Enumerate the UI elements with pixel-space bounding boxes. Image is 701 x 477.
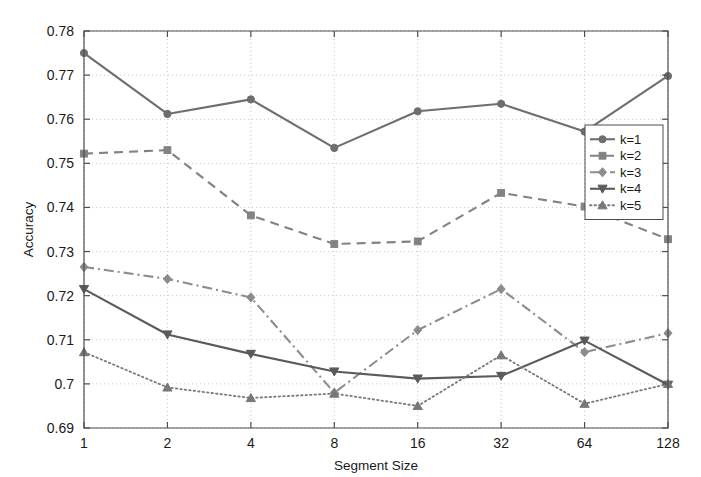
- legend-label: k=5: [620, 198, 641, 213]
- line-chart-canvas: 0.690.70.710.720.730.740.750.760.770.781…: [0, 0, 701, 477]
- data-point-marker: [247, 96, 254, 103]
- x-axis-tick-label: 8: [330, 435, 338, 451]
- data-point-marker: [331, 241, 338, 248]
- legend-label: k=4: [620, 181, 641, 196]
- data-point-marker: [498, 189, 505, 196]
- chart-figure: 0.690.70.710.720.730.740.750.760.770.781…: [0, 0, 701, 477]
- y-axis-tick-label: 0.74: [47, 199, 74, 215]
- chart-legend[interactable]: k=1k=2k=3k=4k=5: [585, 125, 663, 220]
- y-axis-tick-label: 0.76: [47, 111, 74, 127]
- data-point-marker: [164, 110, 171, 117]
- y-axis-tick-label: 0.72: [47, 288, 74, 304]
- x-axis-title: Segment Size: [334, 458, 418, 473]
- legend-marker-square-icon: [599, 152, 606, 159]
- y-axis-tick-label: 0.73: [47, 244, 74, 260]
- x-axis-tick-label: 128: [656, 435, 680, 451]
- legend-label: k=1: [620, 132, 641, 147]
- y-axis-tick-label: 0.71: [47, 332, 74, 348]
- y-axis-tick-label: 0.78: [47, 23, 74, 39]
- data-point-marker: [498, 100, 505, 107]
- data-point-marker: [331, 144, 338, 151]
- x-axis-tick-label: 2: [164, 435, 172, 451]
- legend-label: k=3: [620, 165, 641, 180]
- legend-marker-circle-icon: [599, 136, 606, 143]
- y-axis-tick-label: 0.7: [55, 376, 75, 392]
- y-axis-tick-label: 0.75: [47, 155, 74, 171]
- x-axis-tick-label: 4: [247, 435, 255, 451]
- x-axis-tick-label: 16: [410, 435, 426, 451]
- x-axis-tick-label: 1: [80, 435, 88, 451]
- x-axis-tick-label: 32: [493, 435, 509, 451]
- y-axis-title: Accuracy: [21, 201, 36, 257]
- data-point-marker: [414, 108, 421, 115]
- chart-background: [0, 0, 701, 477]
- y-axis-tick-label: 0.77: [47, 67, 74, 83]
- data-point-marker: [247, 212, 254, 219]
- data-point-marker: [164, 147, 171, 154]
- y-axis-tick-label: 0.69: [47, 420, 74, 436]
- x-axis-tick-label: 64: [577, 435, 593, 451]
- data-point-marker: [414, 238, 421, 245]
- legend-label: k=2: [620, 148, 641, 163]
